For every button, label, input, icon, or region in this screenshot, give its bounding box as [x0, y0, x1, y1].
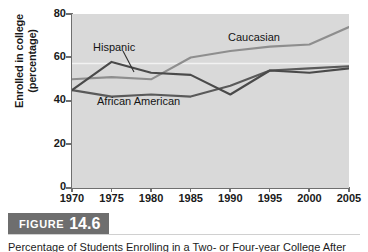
x-tick-label-2005: 2005 [329, 192, 368, 204]
y-tick-label-40: 40 [40, 94, 66, 105]
figure-number: 14.6 [69, 216, 100, 232]
figure-caption: Percentage of Students Enrolling in a Tw… [8, 240, 360, 252]
figure-rule [8, 234, 360, 235]
x-tick-label-2000: 2000 [289, 192, 329, 204]
y-tick-label-60: 60 [40, 51, 66, 62]
figure-label-bar: FIGURE 14.6 [8, 213, 109, 234]
x-tick-label-1980: 1980 [131, 192, 171, 204]
y-tick-label-20: 20 [40, 138, 66, 149]
y-tick-mark-80 [66, 13, 71, 15]
x-tick-label-1995: 1995 [250, 192, 290, 204]
hispanic-leader-line [123, 51, 134, 72]
y-tick-label-0: 0 [40, 181, 66, 192]
x-tick-label-1970: 1970 [52, 192, 92, 204]
series-label-hispanic: Hispanic [93, 41, 135, 53]
x-tick-label-1975: 1975 [92, 192, 132, 204]
x-tick-label-1990: 1990 [210, 192, 250, 204]
y-tick-mark-20 [66, 143, 71, 145]
y-axis-title-line1: Enrolled in college [13, 0, 26, 131]
series-line-caucasian [72, 27, 349, 79]
y-tick-mark-60 [66, 56, 71, 58]
x-tick-label-1985: 1985 [171, 192, 211, 204]
figure-14-6: Enrolled in college (percentage) 80 60 4… [0, 0, 368, 252]
series-label-caucasian: Caucasian [228, 31, 280, 43]
figure-label-word: FIGURE [19, 218, 64, 230]
series-line-african-american [72, 66, 349, 96]
y-tick-mark-40 [66, 100, 71, 102]
y-axis-ticks: 80 60 40 20 0 [30, 0, 66, 200]
line-chart: Enrolled in college (percentage) 80 60 4… [0, 0, 368, 205]
y-tick-label-80: 80 [40, 8, 66, 19]
series-label-african-american: African American [97, 95, 180, 107]
